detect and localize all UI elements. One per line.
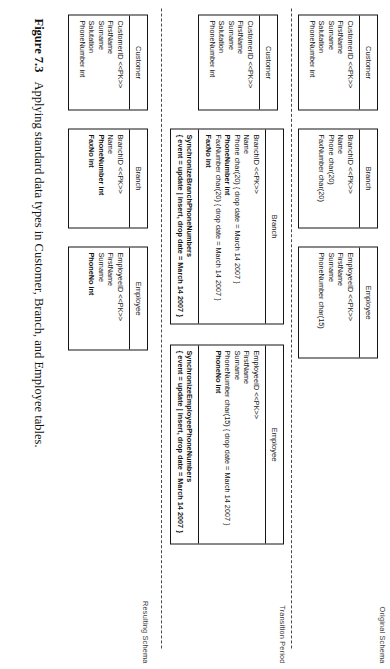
trigger-name: SynchronizeBranchPhoneNumbers	[185, 134, 195, 318]
table-attribute-list: CustomerID <<PK>> FirstName Surname Salu…	[199, 15, 259, 109]
table-attribute-list: EmployeeID <<PK>> FirstName Surname Phon…	[299, 247, 359, 357]
figure-page: Original Schema Customer CustomerID <<PK…	[0, 0, 390, 669]
table-trigger-section: SynchronizeBranchPhoneNumbers { event = …	[171, 129, 199, 323]
table-title: Branch	[265, 129, 283, 323]
band-transition-period: Transition Period Customer CustomerID <<…	[166, 0, 286, 669]
table-attribute: FirstName	[106, 20, 116, 104]
table-attribute: FaxNo int	[87, 134, 97, 222]
table-box-transition-branch: Branch BranchID <<PK>> Name Phone char(2…	[170, 128, 284, 324]
table-attribute: BranchID <<PK>>	[345, 134, 355, 222]
table-attribute: BranchID <<PK>>	[251, 134, 261, 318]
table-attribute: Salutation	[317, 20, 327, 104]
table-attribute: CustomerID <<PK>>	[245, 20, 255, 104]
figure-caption-text: Applying standard data types in Customer…	[32, 81, 46, 447]
table-attribute: Salutation	[87, 20, 97, 104]
table-attribute: PhoneNumber int	[223, 134, 233, 318]
table-attribute: Phone char(20) { drop date = March 14 20…	[232, 134, 242, 318]
table-attribute: Surname	[232, 350, 242, 538]
table-title: Employee	[129, 247, 147, 349]
table-title: Branch	[129, 129, 147, 227]
table-attribute: FaxNo int	[203, 134, 213, 318]
table-attribute-list: BranchID <<PK>> Name Phone char(20) FaxN…	[299, 129, 359, 227]
band-label-resulting-schema: Resulting Schema	[141, 601, 150, 663]
trigger-properties: { event = update | insert, drop date = M…	[175, 134, 185, 318]
table-attribute: Phone char(20)	[326, 134, 336, 222]
table-attribute: BranchID <<PK>>	[115, 134, 125, 222]
table-attribute: PhoneNo int	[213, 350, 223, 538]
table-title: Customer	[259, 15, 277, 109]
table-attribute: Surname	[226, 20, 236, 104]
table-attribute: Surname	[326, 20, 336, 104]
trigger-name: SynchronizeEmployeePhoneNumbers	[185, 350, 195, 538]
table-attribute: Name	[242, 134, 252, 318]
band-label-transition-period: Transition Period	[278, 605, 287, 663]
table-box-resulting-employee: Employee EmployeeID <<PK>> FirstName Sur…	[68, 246, 148, 350]
table-attribute: CustomerID <<PK>>	[115, 20, 125, 104]
table-box-transition-customer: Customer CustomerID <<PK>> FirstName Sur…	[198, 14, 278, 110]
table-attribute: PhoneNumber int	[77, 20, 87, 104]
table-box-resulting-branch: Branch BranchID <<PK>> Name PhoneNumber …	[68, 128, 148, 228]
schema-diagram: Original Schema Customer CustomerID <<PK…	[60, 0, 390, 669]
table-attribute: EmployeeID <<PK>>	[251, 350, 261, 538]
table-attribute: FirstName	[106, 252, 116, 344]
figure-caption-number: Figure 7.3	[32, 18, 46, 72]
table-attribute: FirstName	[336, 20, 346, 104]
table-attribute: Name	[336, 134, 346, 222]
table-attribute: FirstName	[242, 350, 252, 538]
table-attribute-list: EmployeeID <<PK>> FirstName Surname Phon…	[199, 345, 265, 543]
table-attribute: FaxNumber char(20)	[317, 134, 327, 222]
band-original-schema: Original Schema Customer CustomerID <<PK…	[294, 0, 386, 669]
table-attribute: PhoneNumber int	[207, 20, 217, 104]
table-attribute: EmployeeID <<PK>>	[115, 252, 125, 344]
table-attribute: Surname	[96, 252, 106, 344]
table-title: Customer	[129, 15, 147, 109]
table-attribute-list: BranchID <<PK>> Name PhoneNumber int Fax…	[69, 129, 129, 227]
table-attribute: PhoneNumber char(15)	[317, 252, 327, 352]
band-label-original-schema: Original Schema	[378, 606, 387, 663]
table-attribute: FaxNumber char(20) { drop date = March 1…	[213, 134, 223, 318]
table-title: Employee	[265, 345, 283, 543]
table-attribute-list: CustomerID <<PK>> FirstName Surname Salu…	[69, 15, 129, 109]
divider-original-transition	[291, 8, 292, 648]
table-attribute: EmployeeID <<PK>>	[345, 252, 355, 352]
table-attribute: Surname	[326, 252, 336, 352]
table-box-original-employee: Employee EmployeeID <<PK>> FirstName Sur…	[298, 246, 378, 358]
table-attribute: PhoneNumber int	[96, 134, 106, 222]
table-attribute: PhoneNumber char(15) { drop date = March…	[223, 350, 233, 538]
table-attribute: FirstName	[336, 252, 346, 352]
table-title: Branch	[359, 129, 377, 227]
table-trigger-section: SynchronizeEmployeePhoneNumbers { event …	[171, 345, 199, 543]
table-attribute-list: BranchID <<PK>> Name Phone char(20) { dr…	[199, 129, 265, 323]
table-attribute: CustomerID <<PK>>	[345, 20, 355, 104]
table-attribute: PhoneNumber int	[307, 20, 317, 104]
table-attribute: FirstName	[236, 20, 246, 104]
figure-caption: Figure 7.3Applying standard data types i…	[31, 18, 46, 658]
table-attribute: Salutation	[217, 20, 227, 104]
table-box-transition-employee: Employee EmployeeID <<PK>> FirstName Sur…	[170, 344, 284, 544]
trigger-properties: { event = update | insert, drop date = M…	[175, 350, 185, 538]
table-box-original-branch: Branch BranchID <<PK>> Name Phone char(2…	[298, 128, 378, 228]
band-resulting-schema: Resulting Schema Customer CustomerID <<P…	[64, 0, 156, 669]
table-box-resulting-customer: Customer CustomerID <<PK>> FirstName Sur…	[68, 14, 148, 110]
table-title: Customer	[359, 15, 377, 109]
table-attribute: Surname	[96, 20, 106, 104]
divider-transition-resulting	[161, 8, 162, 648]
table-attribute-list: CustomerID <<PK>> FirstName Surname Salu…	[299, 15, 359, 109]
table-attribute-list: EmployeeID <<PK>> FirstName Surname Phon…	[69, 247, 129, 349]
table-attribute: PhoneNo int	[87, 252, 97, 344]
table-box-original-customer: Customer CustomerID <<PK>> FirstName Sur…	[298, 14, 378, 110]
table-attribute: Name	[106, 134, 116, 222]
table-title: Employee	[359, 247, 377, 357]
